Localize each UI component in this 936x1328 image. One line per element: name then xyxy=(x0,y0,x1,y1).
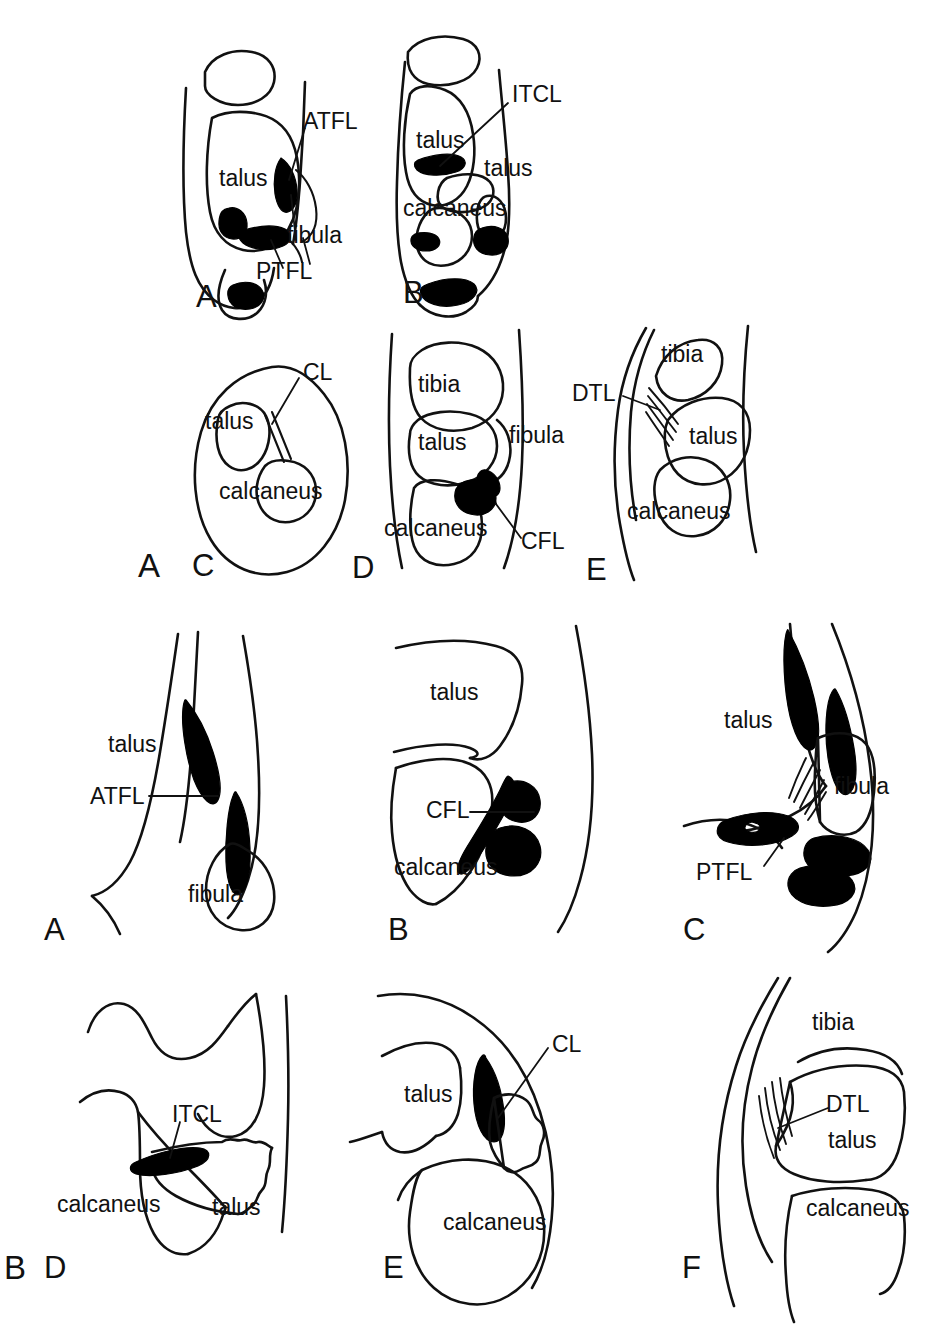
panel-letter-b1: A xyxy=(44,912,65,947)
skin-contour-left-lower xyxy=(92,896,120,934)
label-cfl: CFL xyxy=(426,797,470,823)
label-atfl: ATFL xyxy=(90,783,145,809)
label-fibula: fibula xyxy=(287,222,342,248)
label-talus: talus xyxy=(205,408,254,434)
label-talus-upper: talus xyxy=(416,127,465,153)
panel-b4: ITCL calcaneus talus D B xyxy=(4,994,288,1286)
ligament-blob-heel xyxy=(420,279,476,307)
contour-upper-wave xyxy=(88,1003,228,1059)
bone-outline-talus-top xyxy=(382,1043,460,1068)
label-cl: CL xyxy=(303,359,333,385)
panel-letter-a3: C xyxy=(192,548,214,583)
bone-outline-talus-top xyxy=(790,1066,905,1180)
label-calcaneus: calcaneus xyxy=(219,478,323,504)
label-dtl: DTL xyxy=(572,380,616,406)
label-talus: talus xyxy=(404,1081,453,1107)
bone-outline-top xyxy=(408,37,480,86)
label-atfl: ATFL xyxy=(303,108,358,134)
label-itcl: ITCL xyxy=(172,1101,222,1127)
panel-a3: CL talus calcaneus C A xyxy=(138,359,348,584)
label-talus: talus xyxy=(828,1127,877,1153)
label-tibia: tibia xyxy=(418,371,460,397)
figure-root: ATFL talus fibula PTFL A ITCL talus talu… xyxy=(0,0,936,1328)
panel-letter-a5: E xyxy=(586,552,607,587)
ligament-itcl-shape xyxy=(414,154,465,175)
label-ptfl: PTFL xyxy=(256,258,312,284)
group-letter-b: B xyxy=(4,1249,26,1286)
label-talus: talus xyxy=(108,731,157,757)
ptfl-fiber-2 xyxy=(794,762,814,802)
skin-contour-right xyxy=(478,70,509,296)
label-fibula: fibula xyxy=(509,422,564,448)
panel-letter-a2: B xyxy=(403,275,424,310)
label-calcaneus: calcaneus xyxy=(443,1209,547,1235)
panel-letter-b5: E xyxy=(383,1250,404,1285)
skin-contour-outer xyxy=(378,994,553,1288)
panel-b5: CL talus calcaneus E xyxy=(350,994,582,1304)
label-calcaneus: calcaneus xyxy=(403,195,507,221)
label-calcaneus: calcaneus xyxy=(394,854,498,880)
panel-letter-b2: B xyxy=(388,912,409,947)
calcaneus-left-edge xyxy=(785,1196,794,1322)
ligament-blob-lateral xyxy=(474,226,509,255)
panel-letter-b3: C xyxy=(683,912,705,947)
bone-outline-upper xyxy=(205,51,275,105)
calcaneus-left-edge xyxy=(391,768,436,904)
bone-outline-calcaneus xyxy=(654,457,730,536)
anatomy-figure-canvas: ATFL talus fibula PTFL A ITCL talus talu… xyxy=(0,0,936,1328)
ligament-blob-medial xyxy=(411,233,440,251)
ligament-ptfl-shape xyxy=(239,226,290,250)
ligament-wedge-upper-left xyxy=(784,630,819,750)
label-talus: talus xyxy=(219,165,268,191)
panel-a5: DTL tibia talus calcaneus E xyxy=(572,326,756,587)
skin-outline-oval xyxy=(195,367,348,575)
contour-upper-right xyxy=(228,994,256,1026)
panel-a4: tibia talus fibula calcaneus CFL D xyxy=(352,330,565,585)
label-calcaneus: calcaneus xyxy=(57,1191,161,1217)
bone-outline-talus-bottom-left xyxy=(350,1132,382,1142)
bone-outline-talus-lower-edge xyxy=(394,745,478,758)
ptfl-fiber-1 xyxy=(789,758,806,798)
label-talus-lower: talus xyxy=(484,155,533,181)
label-calcaneus: calcaneus xyxy=(384,515,488,541)
label-talus: talus xyxy=(212,1194,261,1220)
label-calcaneus: calcaneus xyxy=(627,498,731,524)
label-ptfl: PTFL xyxy=(696,859,752,885)
label-dtl: DTL xyxy=(826,1091,870,1117)
panel-letter-b6: F xyxy=(682,1250,701,1285)
skin-contour-right xyxy=(504,330,523,568)
label-fibula: fibula xyxy=(188,881,243,907)
panel-a2: ITCL talus talus calcaneus B xyxy=(397,37,562,317)
label-fibula: fibula xyxy=(834,773,889,799)
panel-b3: talus fibula PTFL C xyxy=(683,624,889,952)
group-letter-a: A xyxy=(138,547,160,584)
bone-outline-talus-bottom-right xyxy=(382,1132,436,1152)
skin-contour-right xyxy=(558,626,593,932)
label-tibia: tibia xyxy=(661,341,703,367)
label-talus: talus xyxy=(430,679,479,705)
label-cl: CL xyxy=(552,1031,582,1057)
ligament-blob-heel xyxy=(228,282,264,309)
label-tibia: tibia xyxy=(812,1009,854,1035)
label-talus: talus xyxy=(689,423,738,449)
label-talus: talus xyxy=(724,707,773,733)
skin-contour-left xyxy=(92,634,178,896)
skin-contour-right xyxy=(282,996,288,1232)
label-talus: talus xyxy=(418,429,467,455)
leader-cl xyxy=(272,378,299,424)
panel-a1: ATFL talus fibula PTFL A xyxy=(183,51,357,319)
label-calcaneus: calcaneus xyxy=(806,1195,910,1221)
ligament-cfl-lower xyxy=(455,480,496,515)
label-itcl: ITCL xyxy=(512,81,562,107)
skin-contour-left-inner xyxy=(630,330,654,520)
panel-letter-a4: D xyxy=(352,550,374,585)
leader-cl xyxy=(498,1048,548,1118)
ligament-cfl-blob-upper xyxy=(499,781,540,822)
panel-b6: tibia DTL talus calcaneus F xyxy=(682,978,910,1322)
panel-b1: talus ATFL fibula A xyxy=(44,632,274,947)
ligament-itcl-shape xyxy=(130,1148,208,1176)
panel-b2: talus CFL calcaneus B xyxy=(388,626,593,947)
panel-letter-b4: D xyxy=(44,1250,66,1285)
label-cfl: CFL xyxy=(521,528,565,554)
panel-letter-a1: A xyxy=(196,279,217,314)
